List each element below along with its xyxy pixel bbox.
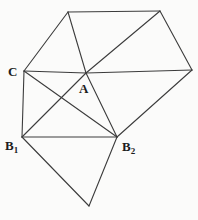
label-B1-subscript: 1 — [14, 145, 19, 155]
label-B1: B1 — [5, 138, 19, 155]
edge-C-B1 — [22, 71, 24, 137]
label-B2: B2 — [122, 139, 136, 156]
geometry-figure: CAB1B2 — [0, 0, 198, 220]
edge-R-B2 — [117, 70, 192, 137]
edge-B1-BOT — [22, 137, 89, 206]
edge-A-R — [86, 70, 192, 73]
label-C: C — [8, 64, 17, 79]
edge-C-B2 — [24, 71, 117, 137]
edge-TR-R — [160, 11, 192, 70]
edge-C-A — [24, 71, 86, 73]
edge-B2-BOT — [89, 137, 117, 206]
edge-TL-A — [68, 12, 86, 73]
edge-TR-A — [86, 11, 160, 73]
edge-A-B2 — [86, 73, 117, 137]
label-A: A — [79, 81, 89, 96]
edge-B1-A — [22, 73, 86, 137]
figure-canvas: CAB1B2 — [0, 0, 198, 220]
edge-TL-TR — [68, 11, 160, 12]
label-B2-subscript: 2 — [131, 146, 136, 156]
edge-TL-C — [24, 12, 68, 71]
